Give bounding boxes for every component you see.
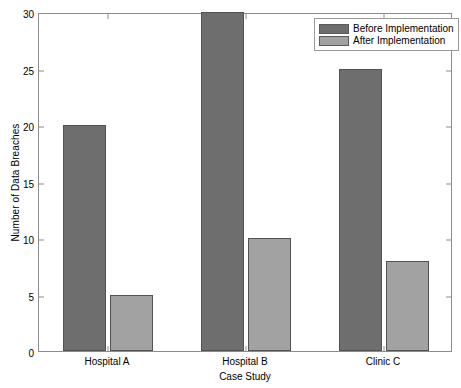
y-tick-mark — [39, 183, 44, 184]
y-tick-label: 20 — [23, 122, 39, 133]
y-tick-label: 15 — [23, 178, 39, 189]
x-tick-label: Hospital B — [222, 356, 268, 367]
bar-after — [248, 238, 291, 351]
y-tick-mark — [39, 70, 44, 71]
legend: Before Implementation After Implementati… — [314, 18, 459, 51]
figure: Number of Data Breaches 051015202530 Bef… — [0, 0, 461, 388]
bar-before — [201, 12, 244, 351]
x-tick-mark — [108, 14, 109, 19]
y-tick-label: 25 — [23, 65, 39, 76]
x-tick-mark — [246, 346, 247, 351]
y-tick-mark — [446, 183, 451, 184]
bar-after — [386, 261, 429, 351]
x-tick-mark — [246, 14, 247, 19]
y-tick-mark — [446, 240, 451, 241]
legend-item-before: Before Implementation — [319, 23, 454, 34]
legend-swatch-after-icon — [319, 36, 349, 46]
y-tick-mark — [446, 70, 451, 71]
x-tick-label: Clinic C — [366, 356, 400, 367]
x-tick-mark — [384, 346, 385, 351]
y-tick-label: 0 — [28, 348, 39, 359]
y-tick-label: 5 — [28, 291, 39, 302]
y-tick-mark — [39, 127, 44, 128]
bar-before — [63, 125, 106, 351]
legend-label-after: After Implementation — [353, 36, 445, 46]
x-axis-title: Case Study — [38, 371, 452, 382]
y-tick-mark — [39, 296, 44, 297]
y-tick-label: 30 — [23, 9, 39, 20]
legend-label-before: Before Implementation — [353, 24, 454, 34]
legend-item-after: After Implementation — [319, 35, 454, 46]
y-tick-mark — [446, 296, 451, 297]
bar-before — [339, 69, 382, 352]
x-tick-label: Hospital A — [84, 356, 129, 367]
plot-area: 051015202530 Before Implementation After… — [38, 13, 452, 352]
y-tick-label: 10 — [23, 235, 39, 246]
legend-swatch-before-icon — [319, 24, 349, 34]
x-tick-mark — [108, 346, 109, 351]
bar-after — [110, 295, 153, 352]
y-tick-mark — [39, 240, 44, 241]
y-tick-mark — [446, 127, 451, 128]
